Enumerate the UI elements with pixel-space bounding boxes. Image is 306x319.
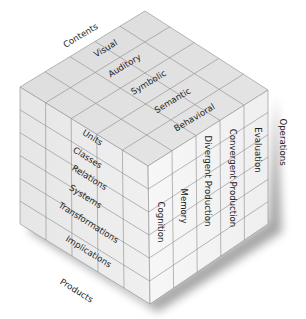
axis-label-products: Products: [58, 276, 95, 304]
operation-label-evaluation: Evaluation: [253, 127, 263, 172]
operation-label-divergent-production: Divergent Production: [203, 136, 213, 227]
operation-label-cognition: Cognition: [156, 201, 166, 242]
cube-svg: ContentsProductsOperationsVisualAuditory…: [0, 0, 306, 319]
operation-label-convergent-production: Convergent Production: [228, 129, 238, 227]
soi-cube-diagram: ContentsProductsOperationsVisualAuditory…: [0, 0, 306, 319]
axis-label-operations: Operations: [278, 118, 288, 166]
operation-label-memory: Memory: [179, 189, 189, 224]
